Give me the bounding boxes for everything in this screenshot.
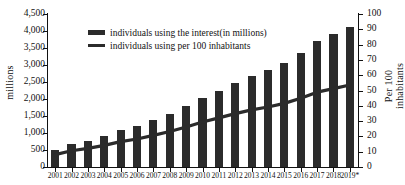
y-axis-left-tick-label: 0 bbox=[4, 162, 45, 172]
y-axis-right-tick-label: 50 bbox=[367, 86, 377, 96]
y-axis-right-tick-label: 10 bbox=[367, 147, 377, 157]
x-axis-tick-mark bbox=[301, 168, 302, 172]
x-axis-labels: 2001200220032004200520062007200820092010… bbox=[47, 172, 358, 184]
y-axis-right-tick-mark bbox=[359, 29, 363, 30]
y-axis-right-ticks: 1009080706050403020100 bbox=[361, 0, 401, 185]
y-axis-right-tick-mark bbox=[359, 91, 363, 92]
y-axis-right-tick-label: 40 bbox=[367, 101, 377, 111]
y-axis-right-tick-mark bbox=[359, 14, 363, 15]
y-axis-right-tick-mark bbox=[359, 45, 363, 46]
y-axis-right-tick-label: 60 bbox=[367, 70, 377, 80]
legend-label-line: individuals using per 100 inhabitants bbox=[110, 41, 250, 51]
y-axis-left-tick-mark bbox=[43, 14, 47, 15]
legend-item-bars: individuals using the interest(in millio… bbox=[88, 26, 303, 39]
x-axis-tick-mark bbox=[137, 168, 138, 172]
x-axis-tick-mark bbox=[153, 168, 154, 172]
y-axis-left-tick-label: 3,000 bbox=[4, 60, 45, 70]
x-axis-tick-mark bbox=[72, 168, 73, 172]
y-axis-right-tick-mark bbox=[359, 60, 363, 61]
y-axis-left-tick-mark bbox=[43, 116, 47, 117]
y-axis-left-tick-label: 2,000 bbox=[4, 94, 45, 104]
y-axis-left-tick-label: 4,000 bbox=[4, 26, 45, 36]
y-axis-left-tick-mark bbox=[43, 150, 47, 151]
x-axis-tick-mark bbox=[235, 168, 236, 172]
x-axis-tick-mark bbox=[350, 168, 351, 172]
y-axis-right-tick-label: 70 bbox=[367, 55, 377, 65]
x-axis-tick-mark bbox=[252, 168, 253, 172]
y-axis-left-tick-mark bbox=[43, 31, 47, 32]
x-axis-label: 2019* bbox=[339, 172, 361, 180]
y-axis-right-tick-label: 80 bbox=[367, 40, 377, 50]
y-axis-left-tick-mark bbox=[43, 133, 47, 134]
y-axis-left-tick-mark bbox=[43, 48, 47, 49]
y-axis-left-tick-mark bbox=[43, 167, 47, 168]
y-axis-right-tick-mark bbox=[359, 121, 363, 122]
y-axis-left-tick-label: 1,500 bbox=[4, 111, 45, 121]
y-axis-right-tick-label: 0 bbox=[367, 162, 372, 172]
y-axis-right-tick-mark bbox=[359, 75, 363, 76]
y-axis-left-tick-mark bbox=[43, 65, 47, 66]
y-axis-right-tick-mark bbox=[359, 167, 363, 168]
y-axis-left-tick-label: 1,000 bbox=[4, 128, 45, 138]
x-axis-tick-mark bbox=[333, 168, 334, 172]
x-axis-tick-mark bbox=[170, 168, 171, 172]
y-axis-left-tick-label: 2,500 bbox=[4, 77, 45, 87]
y-axis-right-tick-mark bbox=[359, 136, 363, 137]
y-axis-right-tick-label: 30 bbox=[367, 116, 377, 126]
y-axis-right-tick-label: 100 bbox=[367, 9, 381, 19]
y-axis-left-ticks: 4,5004,0003,5003,0002,5002,0001,5001,000… bbox=[0, 0, 45, 185]
y-axis-left-tick-label: 4,500 bbox=[4, 9, 45, 19]
legend-label-bars: individuals using the interest(in millio… bbox=[110, 28, 267, 38]
y-axis-left-tick-label: 500 bbox=[4, 145, 45, 155]
x-axis-tick-mark bbox=[88, 168, 89, 172]
x-axis-tick-mark bbox=[268, 168, 269, 172]
y-axis-left-tick-mark bbox=[43, 99, 47, 100]
y-axis-right-tick-mark bbox=[359, 106, 363, 107]
y-axis-right-tick-label: 90 bbox=[367, 24, 377, 34]
x-axis-tick-mark bbox=[121, 168, 122, 172]
chart-legend: individuals using the interest(in millio… bbox=[88, 26, 303, 52]
legend-item-line: individuals using per 100 inhabitants bbox=[88, 39, 303, 52]
y-axis-right-tick-label: 20 bbox=[367, 131, 377, 141]
x-axis-tick-mark bbox=[55, 168, 56, 172]
y-axis-left-tick-mark bbox=[43, 82, 47, 83]
legend-line-swatch-icon bbox=[88, 44, 105, 47]
x-axis-tick-mark bbox=[317, 168, 318, 172]
y-axis-right-tick-mark bbox=[359, 152, 363, 153]
x-axis-tick-mark bbox=[219, 168, 220, 172]
x-axis-tick-mark bbox=[186, 168, 187, 172]
x-axis-tick-mark bbox=[104, 168, 105, 172]
x-axis-tick-mark bbox=[284, 168, 285, 172]
y-axis-left-tick-label: 3,500 bbox=[4, 43, 45, 53]
legend-bar-swatch-icon bbox=[88, 30, 105, 35]
x-axis-tick-mark bbox=[203, 168, 204, 172]
